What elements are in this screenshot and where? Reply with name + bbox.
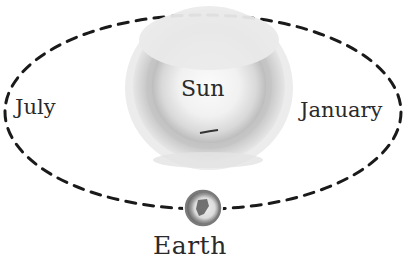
sun-overlap <box>139 10 279 70</box>
earth <box>183 188 223 228</box>
sun-shadow <box>153 152 263 168</box>
orbit-diagram: Sun July January Earth <box>0 0 408 269</box>
january-label: January <box>300 100 382 121</box>
sun-label: Sun <box>181 78 224 100</box>
earth-label: Earth <box>153 233 227 258</box>
orbit-scene <box>0 0 408 269</box>
july-label: July <box>15 97 56 118</box>
